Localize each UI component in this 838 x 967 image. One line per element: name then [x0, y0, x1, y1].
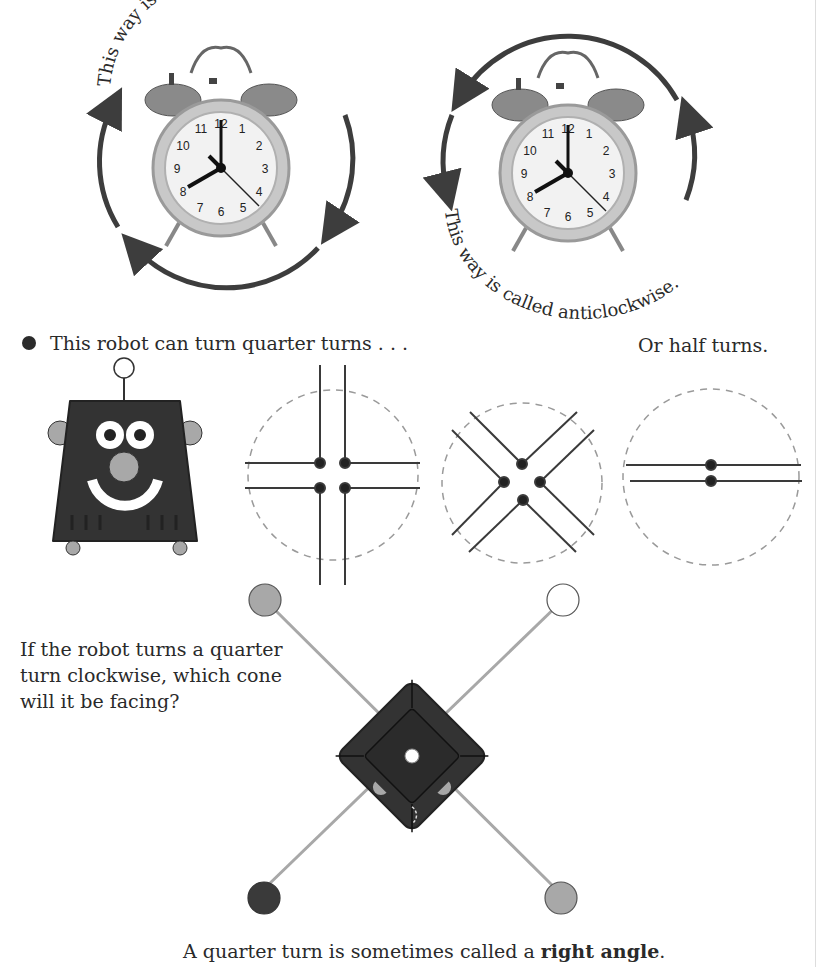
svg-text:8: 8 [527, 190, 534, 204]
clockwise-illustration: This way is called clockwise. 1212 345 6… [0, 0, 838, 300]
svg-text:10: 10 [523, 144, 537, 158]
svg-text:7: 7 [197, 201, 204, 215]
right-angle-definition: A quarter turn is sometimes called a rig… [183, 938, 665, 964]
robot-top-view-icon [336, 680, 489, 833]
quarter-turn-x-diagram [442, 403, 602, 563]
svg-text:1: 1 [586, 127, 593, 141]
cone-bottom-left[interactable] [248, 882, 280, 914]
svg-text:1: 1 [239, 122, 246, 136]
half-turn-diagram [623, 389, 802, 565]
footer-prefix: A quarter turn is sometimes called a [183, 940, 541, 962]
bullet-icon [22, 336, 36, 350]
svg-text:10: 10 [176, 139, 190, 153]
svg-text:5: 5 [587, 206, 594, 220]
svg-text:6: 6 [218, 205, 225, 219]
robot-diagrams [0, 355, 838, 575]
footer-suffix: . [659, 940, 665, 962]
alarm-clock-icon: 1212 345 678 91011 [145, 47, 297, 246]
clockwise-caption: This way is called clockwise. [93, 0, 317, 88]
svg-text:2: 2 [603, 144, 610, 158]
cone-top-left[interactable] [249, 584, 281, 616]
svg-text:3: 3 [262, 162, 269, 176]
svg-text:7: 7 [544, 206, 551, 220]
robot-intro-line: This robot can turn quarter turns . . . [22, 330, 408, 356]
svg-text:11: 11 [195, 122, 208, 136]
svg-text:3: 3 [609, 167, 616, 181]
svg-text:8: 8 [180, 185, 187, 199]
alarm-clock-icon: 1212 345 678 91011 [492, 52, 644, 251]
svg-text:9: 9 [174, 162, 181, 176]
robot-icon [48, 358, 202, 555]
cone-top-right[interactable] [547, 584, 579, 616]
svg-text:6: 6 [565, 210, 572, 224]
right-angle-term: right angle [541, 940, 659, 962]
svg-text:2: 2 [256, 139, 263, 153]
svg-text:9: 9 [521, 167, 528, 181]
svg-text:11: 11 [542, 127, 555, 141]
svg-text:5: 5 [240, 201, 247, 215]
cone-diagram [0, 570, 838, 930]
cone-bottom-right[interactable] [545, 882, 577, 914]
quarter-turn-plus-diagram [245, 365, 420, 585]
svg-text:4: 4 [256, 185, 263, 199]
svg-text:4: 4 [603, 190, 610, 204]
robot-intro-text: This robot can turn quarter turns . . . [50, 330, 408, 356]
